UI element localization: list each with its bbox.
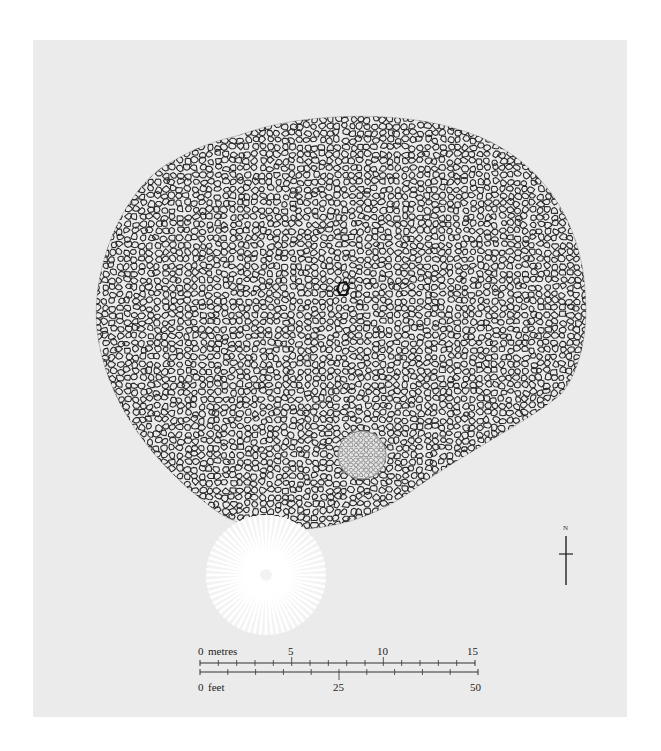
scale-bar-metres [200,657,475,666]
scale-feet-50: 50 [470,682,481,693]
north-label: N [563,524,568,532]
north-arrow-icon [559,536,573,585]
stone-ring [84,100,597,544]
scale-bar-feet [200,669,478,680]
scale-metres-10: 10 [377,646,388,657]
disturbed-area [206,515,326,635]
site-plan-drawing [0,0,661,751]
scale-feet-0: 0 [198,682,204,693]
scale-feet-unit: feet [208,682,224,693]
scale-metres-0: 0 [198,646,204,657]
scale-metres-unit: metres [208,646,237,657]
scale-feet-25: 25 [333,682,344,693]
scale-metres-5: 5 [288,646,294,657]
scale-metres-15: 15 [467,646,478,657]
